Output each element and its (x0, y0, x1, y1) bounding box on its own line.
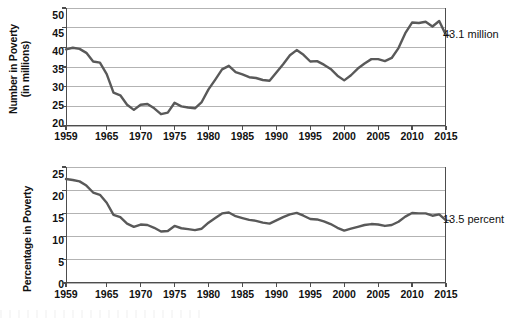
y-axis-title-bottom: Percentage in Poverty (21, 184, 33, 294)
x-tick: 1975 (163, 289, 186, 300)
x-tick: 1980 (197, 289, 220, 300)
x-tick: 2015 (434, 289, 457, 300)
y-tick: 15 (52, 213, 64, 223)
x-tick: 1995 (299, 289, 322, 300)
data-line-line (66, 21, 446, 114)
x-tick: 2000 (333, 131, 356, 142)
y-tick: 50 (52, 10, 64, 20)
y-tick: 45 (52, 28, 64, 38)
x-tick: 2005 (366, 289, 389, 300)
y-tick: 5 (58, 257, 64, 267)
x-tick: 1995 (299, 131, 322, 142)
x-tick: 1970 (129, 289, 152, 300)
x-tick: 1985 (231, 289, 254, 300)
x-tick: 1965 (95, 289, 118, 300)
x-tick: 1959 (54, 131, 77, 142)
x-tick: 1959 (54, 289, 77, 300)
x-tick: 1980 (197, 131, 220, 142)
chart-number-in-poverty: Number in Poverty (in millions) 50 45 40… (0, 0, 529, 155)
x-tick: 1990 (265, 289, 288, 300)
plot-area-bottom (66, 167, 446, 307)
x-tick: 2015 (434, 131, 457, 142)
data-line-line (66, 179, 446, 231)
x-tick: 1970 (129, 131, 152, 142)
y-tick: 35 (52, 64, 64, 74)
x-tick: 1985 (231, 131, 254, 142)
x-tick: 2010 (400, 289, 423, 300)
x-tick: 1990 (265, 131, 288, 142)
y-axis-title-top-line1: Number in Poverty (7, 24, 19, 114)
y-tick: 25 (52, 100, 64, 110)
x-tick: 2000 (333, 289, 356, 300)
y-axis-title-top-line2: (in millions) (19, 14, 31, 124)
y-tick: 20 (52, 191, 64, 201)
y-axis-ticks-bottom: 25 20 15 10 5 0 (42, 155, 64, 275)
x-tick: 1975 (163, 131, 186, 142)
y-axis-title-top: Number in Poverty (in millions) (7, 14, 31, 124)
x-tick: 2010 (400, 131, 423, 142)
scan-artifact (0, 310, 200, 318)
poverty-figure: Number in Poverty (in millions) 50 45 40… (0, 0, 529, 318)
x-tick: 1965 (95, 131, 118, 142)
x-tick: 2005 (366, 131, 389, 142)
y-axis-ticks-top: 50 45 40 35 30 25 20 (42, 0, 64, 120)
annotation-percentage-in-poverty: 13.5 percent (443, 213, 504, 225)
annotation-number-in-poverty: 43.1 million (443, 28, 499, 40)
y-tick: 25 (52, 169, 64, 179)
chart-percentage-in-poverty: Percentage in Poverty 25 20 15 10 5 0 19… (0, 155, 529, 318)
plot-area-top (66, 8, 446, 148)
